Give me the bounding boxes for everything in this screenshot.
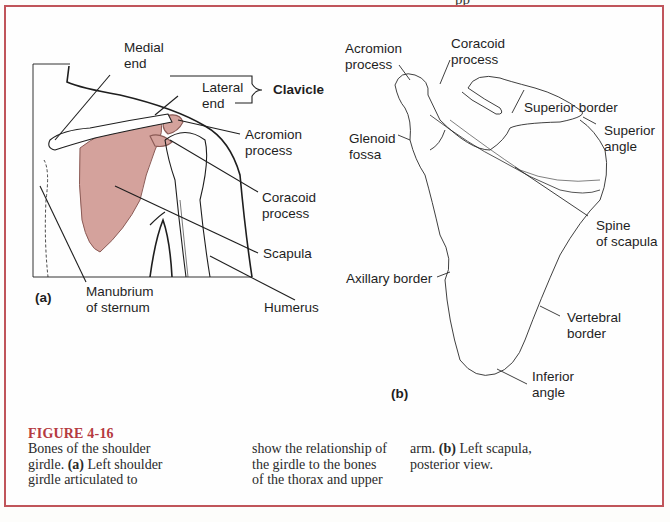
panel-b-tag: (b): [391, 386, 408, 402]
caption-line: Bones of the shoulder: [28, 441, 178, 457]
figure-number: FIGURE 4-16: [28, 426, 114, 442]
label-vertebral-line1: Vertebral: [567, 310, 621, 326]
label-spine-line2: of scapula: [596, 234, 658, 250]
caption-column-1: Bones of the shoulder girdle. (a) Left s…: [28, 441, 178, 488]
label-acromion-a-line1: Acromion: [245, 127, 302, 143]
caption-column-2: show the relationship of the girdle to t…: [252, 441, 402, 488]
label-vertebral-border: Vertebral border: [567, 310, 621, 342]
caption-line: the girdle to the bones: [252, 457, 402, 473]
label-axillary-border: Axillary border: [346, 271, 432, 287]
caption-line: posterior view.: [410, 457, 560, 473]
label-acromion-b-line2: process: [345, 57, 402, 73]
panel-a-tag: (a): [35, 290, 52, 306]
caption-line: of the thorax and upper: [252, 472, 402, 488]
label-scapula: Scapula: [263, 246, 312, 262]
label-clavicle: Clavicle: [273, 82, 324, 98]
label-coracoid-process-b: Coracoid process: [451, 36, 505, 68]
label-glenoid-line1: Glenoid: [349, 131, 396, 147]
label-lateral-end-line2: end: [202, 96, 243, 112]
label-superior-angle: Superior angle: [604, 123, 655, 155]
label-inferior-angle-line1: Inferior: [532, 369, 574, 385]
label-superior-angle-line2: angle: [604, 139, 655, 155]
label-medial-end: Medial end: [124, 40, 164, 72]
label-superior-angle-line1: Superior: [604, 123, 655, 139]
caption-line: arm. (b) Left scapula,: [410, 441, 560, 457]
label-manubrium: Manubrium of sternum: [86, 284, 154, 316]
label-spine-line1: Spine: [596, 218, 658, 234]
caption-line: show the relationship of: [252, 441, 402, 457]
label-lateral-end-line1: Lateral: [202, 80, 243, 96]
label-glenoid-line2: fossa: [349, 147, 396, 163]
panel-a-drawing: [33, 64, 295, 300]
label-acromion-process-b: Acromion process: [345, 41, 402, 73]
label-coracoid-b-line2: process: [451, 52, 505, 68]
label-coracoid-a-line2: process: [262, 206, 316, 222]
label-vertebral-line2: border: [567, 326, 621, 342]
label-coracoid-a-line1: Coracoid: [262, 190, 316, 206]
label-glenoid-fossa: Glenoid fossa: [349, 131, 396, 163]
label-coracoid-b-line1: Coracoid: [451, 36, 505, 52]
label-lateral-end: Lateral end: [202, 80, 243, 112]
label-superior-border: Superior border: [524, 100, 618, 116]
label-acromion-a-line2: process: [245, 143, 302, 159]
label-medial-end-line1: Medial: [124, 40, 164, 56]
label-humerus: Humerus: [264, 300, 319, 316]
label-inferior-angle-line2: angle: [532, 385, 574, 401]
label-manubrium-line2: of sternum: [86, 300, 154, 316]
label-medial-end-line2: end: [124, 56, 164, 72]
caption-line: girdle. (a) Left shoulder: [28, 457, 178, 473]
caption-line: girdle articulated to: [28, 472, 178, 488]
label-coracoid-process-a: Coracoid process: [262, 190, 316, 222]
label-manubrium-line1: Manubrium: [86, 284, 154, 300]
label-acromion-process-a: Acromion process: [245, 127, 302, 159]
caption-column-3: arm. (b) Left scapula, posterior view.: [410, 441, 560, 472]
label-inferior-angle: Inferior angle: [532, 369, 574, 401]
label-acromion-b-line1: Acromion: [345, 41, 402, 57]
label-spine-of-scapula: Spine of scapula: [596, 218, 658, 250]
